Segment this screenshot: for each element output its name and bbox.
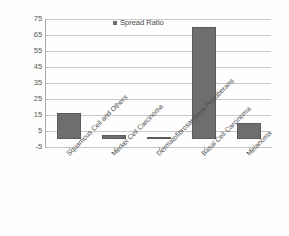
x-axis-tick-mark [249,147,250,150]
bar [237,123,261,139]
bar [57,113,81,139]
y-axis-tick-label: 25 [14,95,42,103]
y-axis-tick-label: 45 [14,63,42,71]
plot-area [46,19,271,147]
gridline [46,51,271,52]
y-axis-tick-label: 5 [14,127,42,135]
bar [192,27,216,139]
x-axis-category-label: Basal Cell Carcinoma [200,152,206,158]
y-axis: 756555453525155-5 [10,19,42,147]
gridline [46,99,271,100]
x-axis-tick-mark [114,147,115,150]
y-axis-tick-label: 75 [14,15,42,23]
x-axis-category-label: Squamous Cell and Others [65,152,71,158]
y-axis-tick-label: 35 [14,79,42,87]
y-axis-tick-label: 65 [14,31,42,39]
x-axis-tick-mark [69,147,70,150]
gridline [46,35,271,36]
gridline [46,67,271,68]
gridline [46,83,271,84]
legend-entry-label: Spread Ratio [120,19,164,27]
y-axis-tick-label: -5 [14,143,42,151]
y-axis-tick-label: 15 [14,111,42,119]
x-axis-category-label: Melanoma [245,152,251,158]
x-axis-tick-mark [159,147,160,150]
x-axis-category-label: Dermatofibrosarcoma Protuberans [155,152,161,158]
y-axis-tick-label: 55 [14,47,42,55]
x-axis-tick-mark [204,147,205,150]
legend-swatch-icon [113,21,117,25]
bar-chart: 756555453525155-5 Spread Ratio Squamous … [0,0,289,236]
chart-legend: Spread Ratio [113,19,164,27]
x-axis-category-label: Merkel Cell Carcinoma [110,152,116,158]
